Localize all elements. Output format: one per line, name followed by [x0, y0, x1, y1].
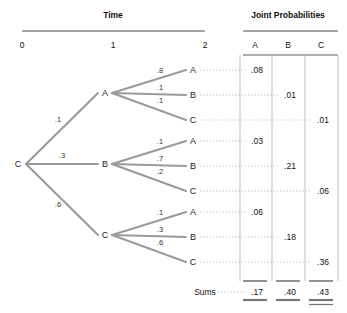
branch-prob-leaf-2: .1	[157, 84, 163, 92]
joint-prob-6: .06	[317, 187, 329, 196]
branch-prob-level1-a: .1	[55, 116, 61, 124]
joint-prob-8: .18	[284, 233, 296, 242]
time-tick-2: 2	[203, 41, 208, 50]
sum-value-b: .40	[284, 288, 296, 297]
tree-node-level1-b: B	[102, 160, 108, 169]
joint-prob-3: .01	[317, 116, 329, 125]
tree-node-level1-c: C	[102, 231, 109, 240]
tree-leaf-2: B	[190, 91, 196, 100]
joint-prob-1: .08	[251, 66, 263, 75]
time-tick-0: 0	[20, 41, 25, 50]
sums-label: Sums	[194, 288, 216, 297]
joint-prob-2: .01	[284, 91, 296, 100]
joint-prob-5: .21	[284, 162, 296, 171]
tree-leaf-5: B	[190, 162, 196, 171]
tree-leaf-9: C	[190, 258, 197, 267]
tree-leaf-3: C	[190, 116, 197, 125]
column-header-a: A	[252, 41, 258, 50]
joint-prob-4: .03	[251, 137, 263, 146]
branch-prob-leaf-4: .1	[157, 138, 163, 146]
diagram-artwork	[0, 0, 347, 313]
branch-prob-leaf-7: .1	[157, 209, 163, 217]
joint-probabilities-header: Joint Probabilities	[251, 10, 325, 20]
tree-leaf-7: A	[190, 208, 196, 217]
branch-prob-level1-c: .6	[55, 201, 61, 209]
probability-tree-diagram: Time Joint Probabilities 0 1 2 A B C C A…	[0, 0, 347, 313]
sum-value-a: .17	[251, 288, 263, 297]
branch-prob-leaf-1: .8	[157, 67, 163, 75]
branch-prob-leaf-8: .3	[157, 226, 163, 234]
time-tick-1: 1	[111, 41, 116, 50]
tree-leaf-6: C	[190, 187, 197, 196]
tree-leaf-8: B	[190, 233, 196, 242]
sum-value-c: .43	[317, 288, 329, 297]
column-header-b: B	[285, 41, 291, 50]
tree-leaf-4: A	[190, 137, 196, 146]
branch-prob-leaf-5: .7	[157, 155, 163, 163]
time-header: Time	[103, 10, 123, 20]
branch-prob-leaf-3: .1	[157, 97, 163, 105]
column-header-c: C	[318, 41, 324, 50]
branch-prob-level1-b: .3	[59, 152, 65, 160]
branch-prob-leaf-9: .6	[157, 239, 163, 247]
tree-node-level1-a: A	[102, 89, 108, 98]
joint-prob-7: .06	[251, 208, 263, 217]
branch-prob-leaf-6: .2	[157, 168, 163, 176]
tree-node-root: C	[15, 160, 22, 169]
tree-leaf-1: A	[190, 66, 196, 75]
joint-prob-9: .36	[317, 258, 329, 267]
